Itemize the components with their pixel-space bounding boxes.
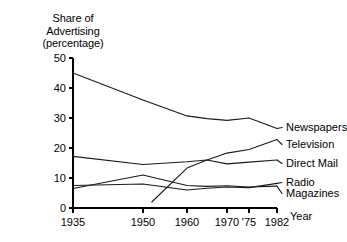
x-tick-label-1982: 1982 [265, 216, 289, 228]
x-axis-name: Year [290, 210, 313, 222]
x-axis-tick-labels: 1935195019601970'751982 [61, 216, 289, 228]
x-tick-label-'75: '75 [242, 216, 256, 228]
y-tick-label-20: 20 [54, 142, 66, 154]
axis-lines [73, 58, 277, 208]
y-tick-label-0: 0 [60, 202, 66, 214]
series-label-magazines: Magazines [286, 187, 340, 199]
x-tick-label-1935: 1935 [61, 216, 85, 228]
axes [73, 58, 277, 208]
series-leader-television [277, 140, 282, 145]
series-line-direct-mail [73, 156, 277, 164]
axis-ticks [69, 58, 277, 213]
plot-area: 01020304050 1935195019601970'751982 News… [0, 0, 347, 242]
x-tick-label-1950: 1950 [131, 216, 155, 228]
series-leader-magazines [277, 186, 282, 193]
series-line-magazines [73, 175, 277, 189]
x-tick-label-1960: 1960 [175, 216, 199, 228]
series-leader-direct-mail [277, 160, 282, 164]
y-tick-label-50: 50 [54, 52, 66, 64]
series-label-direct-mail: Direct Mail [286, 157, 338, 169]
y-tick-label-30: 30 [54, 112, 66, 124]
series-leader-radio [277, 183, 282, 184]
data-series-lines [73, 73, 282, 202]
y-axis-tick-labels: 01020304050 [54, 52, 66, 214]
series-leader-newspapers [277, 128, 282, 129]
y-tick-label-40: 40 [54, 82, 66, 94]
series-label-newspapers: Newspapers [286, 121, 347, 133]
y-tick-label-10: 10 [54, 172, 66, 184]
series-line-newspapers [73, 73, 277, 129]
advertising-share-line-chart: Share of Advertising (percentage) 010203… [0, 0, 347, 242]
x-tick-label-1970: 1970 [215, 216, 239, 228]
series-labels: NewspapersTelevisionDirect MailRadioMaga… [286, 121, 347, 199]
series-label-television: Television [286, 138, 334, 150]
series-line-television [152, 140, 277, 202]
